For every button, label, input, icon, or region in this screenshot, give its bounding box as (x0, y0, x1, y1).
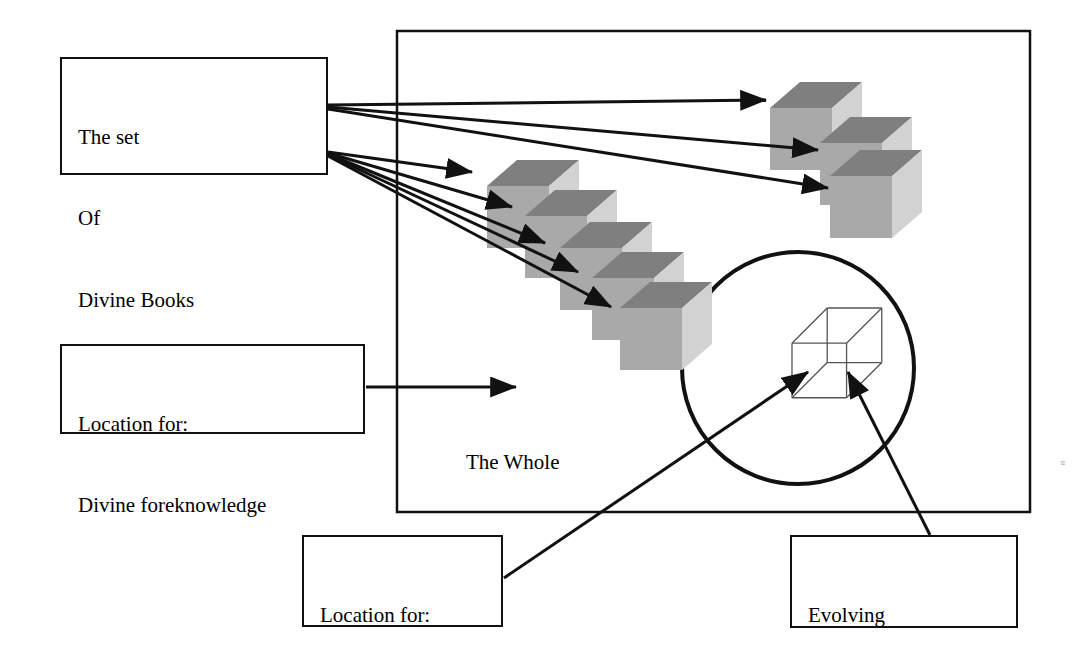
label-box-location-divine-foreknowledge[interactable]: Location for: Divine foreknowledge (60, 344, 365, 434)
shaded-cube (770, 82, 862, 170)
the-whole-frame (397, 31, 1030, 512)
the-whole-label: The Whole (466, 449, 560, 476)
label-box-evolving-divine-book[interactable]: Evolving Divine Book (790, 535, 1018, 628)
wire-cube-edge (792, 308, 827, 343)
arrow-set-to-upper-cube-3 (328, 109, 828, 188)
shaded-cube (560, 222, 652, 310)
arrow-set-to-cascade-4 (328, 155, 578, 272)
cube-cluster-group (487, 82, 922, 370)
wire-cube-edge (847, 308, 882, 343)
arrow-evolving-book-to-wire-cube (848, 372, 930, 535)
shaded-cube (525, 190, 617, 278)
box-line: Location for: (320, 602, 501, 629)
cube-cluster-upper-right-cluster (770, 82, 922, 238)
arrow-set-to-upper-cube-2 (328, 107, 818, 150)
shaded-cube (830, 150, 922, 238)
wire-cube-edge (847, 363, 882, 398)
shaded-cube (820, 117, 912, 205)
arrow-set-to-cascade-5 (328, 156, 611, 307)
label-box-location-free-will[interactable]: Location for: Free will (302, 535, 503, 627)
arrow-set-to-cascade-1 (328, 152, 472, 172)
shaded-cube (592, 252, 684, 340)
box-line: The set (78, 124, 326, 151)
box-line: Of (78, 205, 326, 232)
arrow-set-to-cascade-2 (328, 153, 512, 207)
wire-cube-edge (792, 363, 827, 398)
diagram-canvas: The set Of Divine Books Location for: Di… (0, 0, 1087, 667)
shaded-cube (487, 160, 579, 248)
shaded-cube (620, 282, 712, 370)
box-line: Divine Books (78, 287, 326, 314)
the-whole-circle (682, 252, 914, 484)
scan-artifact-mark: ≡ (1060, 458, 1064, 468)
box-line: Evolving (808, 602, 1016, 629)
arrow-set-to-upper-cube-1 (328, 100, 766, 105)
box-line: Divine foreknowledge (78, 492, 363, 519)
label-box-set-of-divine-books[interactable]: The set Of Divine Books (60, 57, 328, 175)
arrow-set-to-cascade-3 (328, 154, 545, 243)
box-line: Location for: (78, 411, 363, 438)
arrow-group (328, 100, 930, 578)
cube-cluster-diagonal-cascade-cluster (487, 160, 712, 370)
evolving-divine-book-wireframe (792, 308, 882, 398)
